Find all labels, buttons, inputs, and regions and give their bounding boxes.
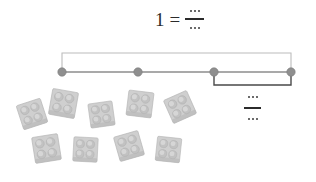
- block-brick-graphic: [47, 87, 81, 121]
- block-brick[interactable]: [86, 99, 116, 129]
- block-brick[interactable]: [71, 135, 99, 163]
- scattered-blocks-group: [0, 0, 316, 182]
- block-brick[interactable]: [112, 129, 147, 164]
- block-brick[interactable]: [30, 132, 63, 165]
- block-brick-graphic: [162, 89, 199, 126]
- block-brick-graphic: [30, 132, 63, 165]
- block-brick-graphic: [124, 88, 155, 119]
- block-brick-graphic: [71, 135, 99, 163]
- block-brick[interactable]: [124, 88, 155, 119]
- block-brick-graphic: [86, 99, 116, 129]
- figure-canvas: 1 =: [0, 0, 316, 182]
- block-brick[interactable]: [14, 96, 49, 131]
- block-brick-graphic: [112, 129, 147, 164]
- block-brick[interactable]: [162, 89, 199, 126]
- block-brick[interactable]: [154, 135, 184, 165]
- block-brick[interactable]: [47, 87, 81, 121]
- block-brick-graphic: [14, 96, 49, 131]
- block-brick-graphic: [154, 135, 184, 165]
